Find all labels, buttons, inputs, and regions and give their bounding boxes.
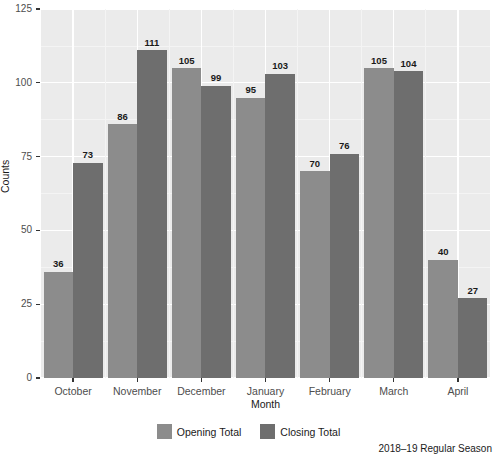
bar-value-label: 105 (179, 56, 195, 66)
x-tick-mark (393, 378, 394, 382)
x-tick-label: December (177, 386, 225, 397)
x-tick-label: April (447, 386, 468, 397)
y-tick-mark (36, 156, 40, 157)
bar[interactable] (137, 50, 167, 378)
bar[interactable] (458, 298, 488, 378)
y-tick-mark (36, 230, 40, 231)
bar[interactable] (73, 163, 103, 378)
bar[interactable] (108, 124, 138, 378)
bar[interactable] (300, 171, 330, 378)
grid-line-vertical-minor (233, 9, 234, 378)
x-tick-label: February (309, 386, 351, 397)
bar[interactable] (265, 74, 295, 378)
bar-value-label: 73 (83, 150, 94, 160)
bar-group: 7076 (300, 9, 359, 378)
bar-value-label: 36 (53, 259, 64, 269)
legend-swatch-closing (260, 424, 275, 439)
legend-item: Opening Total (157, 424, 242, 439)
y-tick-label: 25 (0, 299, 32, 309)
bar-group: 105104 (364, 9, 423, 378)
x-tick-mark (457, 378, 458, 382)
legend-label: Opening Total (177, 426, 242, 438)
bar[interactable] (236, 98, 266, 378)
bar-group: 3673 (44, 9, 103, 378)
x-tick-mark (137, 378, 138, 382)
bar-group: 4027 (428, 9, 487, 378)
bar-value-label: 99 (211, 73, 222, 83)
y-tick-label: 50 (0, 225, 32, 235)
y-tick-label: 100 (0, 78, 32, 88)
x-tick-mark (201, 378, 202, 382)
bar-value-label: 105 (371, 56, 387, 66)
bar-value-label: 104 (401, 59, 417, 69)
bar-value-label: 40 (438, 247, 449, 257)
bar[interactable] (201, 86, 231, 378)
bar[interactable] (394, 71, 424, 378)
bar-value-label: 76 (339, 141, 350, 151)
x-tick-mark (329, 378, 330, 382)
x-axis-title: Month (251, 398, 280, 410)
bar[interactable] (428, 260, 458, 378)
bar-value-label: 111 (145, 38, 160, 48)
bar[interactable] (44, 272, 74, 378)
bar-group: 95103 (236, 9, 295, 378)
y-tick-mark (36, 377, 40, 378)
x-tick-label: January (247, 386, 284, 397)
legend-label: Closing Total (280, 426, 340, 438)
y-tick-label: 75 (0, 152, 32, 162)
x-tick-label: March (379, 386, 408, 397)
y-tick-mark (36, 304, 40, 305)
chart-legend: Opening TotalClosing Total (0, 424, 497, 439)
bar-value-label: 95 (245, 85, 256, 95)
x-tick-label: November (113, 386, 161, 397)
bar[interactable] (330, 154, 360, 378)
grid-line-vertical-minor (105, 9, 106, 378)
grid-line-vertical-minor (425, 9, 426, 378)
chart-caption: 2018–19 Regular Season (379, 443, 492, 454)
grid-line-vertical-minor (297, 9, 298, 378)
grid-line-vertical-minor (361, 9, 362, 378)
x-tick-mark (72, 378, 73, 382)
bar[interactable] (364, 68, 394, 378)
y-tick-label: 125 (0, 4, 32, 14)
y-tick-mark (36, 82, 40, 83)
bar-value-label: 86 (117, 112, 128, 122)
legend-item: Closing Total (260, 424, 340, 439)
x-tick-mark (265, 378, 266, 382)
legend-swatch-opening (157, 424, 172, 439)
y-tick-label: 0 (0, 373, 32, 383)
bar-group: 86111 (108, 9, 167, 378)
plot-panel: 367386111105999510370761051044027 (41, 9, 490, 378)
bar[interactable] (172, 68, 202, 378)
y-axis-title: Counts (0, 160, 11, 193)
bar-group: 10599 (172, 9, 231, 378)
bar-value-label: 27 (467, 286, 478, 296)
x-tick-label: October (54, 386, 91, 397)
bar-value-label: 70 (310, 159, 321, 169)
y-tick-mark (36, 8, 40, 9)
bar-chart: Counts 0255075100125 3673861111059995103… (0, 0, 497, 458)
grid-line-vertical-minor (169, 9, 170, 378)
bar-value-label: 103 (272, 61, 288, 71)
